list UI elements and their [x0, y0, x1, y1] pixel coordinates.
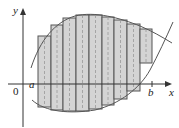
approximating-rectangles [38, 15, 152, 111]
x-axis-label: x [169, 87, 174, 98]
b-label: b [148, 87, 154, 98]
rectangle-6 [102, 17, 114, 105]
riemann-sum-diagram [0, 0, 179, 128]
y-axis-label: y [13, 5, 18, 16]
a-label: a [29, 79, 35, 90]
origin-label: 0 [13, 86, 19, 97]
y-axis-arrow-icon [20, 8, 26, 15]
